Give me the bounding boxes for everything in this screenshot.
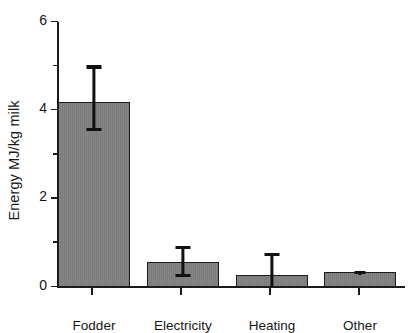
errorbar-fodder [58,22,130,287]
errorbar-cap-upper [176,246,191,249]
errorbar-stem [270,253,273,287]
x-tick-3 [358,288,360,295]
y-tick-label-0: 0 [39,277,47,294]
x-axis-label-fodder: Fodder [44,318,144,333]
errorbar-stem [92,66,95,131]
y-tick-0: 0 [51,286,58,288]
errorbar-electricity [147,22,219,287]
y-tick-label-6: 6 [39,12,47,29]
errorbar-stem [181,246,184,277]
y-axis-title: Energy MJ/kg milk [6,0,22,321]
errorbar-cap-upper [265,253,280,256]
y-tick-label-4: 4 [39,100,47,117]
errorbar-other [324,22,396,287]
plot-area: 6 4 2 0 [58,22,404,287]
x-axis-label-electricity: Electricity [133,318,233,333]
errorbar-cap-upper [355,271,366,274]
errorbar-heating [236,22,308,287]
x-tick-2 [269,288,271,295]
errorbar-cap-lower [176,274,191,277]
errorbar-cap-upper [87,65,102,68]
x-axis-label-heating: Heating [222,318,322,333]
errorbar-cap-lower [87,128,102,131]
y-tick-2: 2 [51,197,58,199]
x-axis-label-other: Other [310,318,410,333]
y-tick-6: 6 [51,21,58,23]
y-tick-4: 4 [51,109,58,111]
y-tick-label-2: 2 [39,188,47,205]
x-tick-0 [91,288,93,295]
x-tick-1 [180,288,182,295]
